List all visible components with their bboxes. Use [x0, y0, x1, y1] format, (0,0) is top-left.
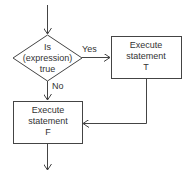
- decision-line-2: (expression): [13, 53, 82, 64]
- decision-text: Is (expression) true: [13, 42, 82, 75]
- flowchart-canvas: [0, 0, 195, 178]
- decision-line-1: Is: [13, 42, 82, 53]
- statement-t-line-1: Execute: [111, 40, 181, 51]
- decision-line-3: true: [13, 64, 82, 75]
- statement-t-text: Execute statement T: [111, 40, 181, 73]
- statement-f-line-3: F: [13, 127, 83, 138]
- statement-f-line-1: Execute: [13, 105, 83, 116]
- statement-f-text: Execute statement F: [13, 105, 83, 138]
- statement-f-line-2: statement: [13, 116, 83, 127]
- statement-t-line-3: T: [111, 62, 181, 73]
- statement-t-line-2: statement: [111, 51, 181, 62]
- no-label: No: [52, 81, 64, 92]
- yes-label: Yes: [82, 44, 97, 55]
- merge-connector: [83, 79, 147, 124]
